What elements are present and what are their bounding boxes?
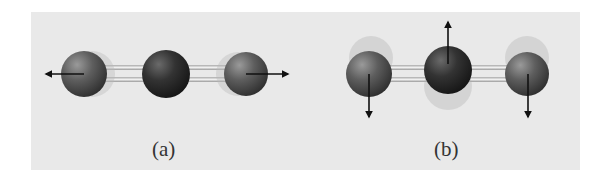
panel-b-label: (b) — [434, 137, 459, 162]
panel-b-molecule — [346, 22, 549, 117]
carbon-atom-center — [142, 50, 190, 98]
panel-a-label: (a) — [152, 137, 175, 162]
panel-a-molecule — [46, 50, 288, 98]
oxygen-atom-right — [505, 52, 549, 96]
molecule-vibration-diagram — [0, 0, 610, 176]
